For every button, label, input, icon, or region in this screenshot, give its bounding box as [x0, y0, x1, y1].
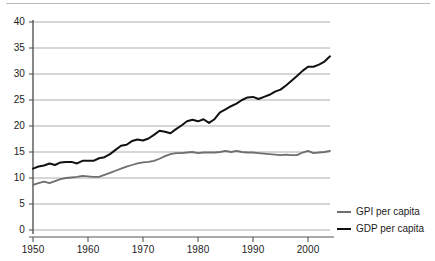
x-axis-label-1970: 1970	[126, 244, 160, 255]
x-axis-label-2000: 2000	[291, 244, 325, 255]
x-axis-label-1960: 1960	[71, 244, 105, 255]
legend-item-gdp[interactable]: GDP per capita	[337, 220, 433, 237]
chart-legend: GPI per capita GDP per capita	[337, 203, 433, 237]
y-axis-label-40: 40	[3, 16, 25, 27]
y-axis-label-0: 0	[3, 224, 25, 235]
axes-group	[29, 20, 334, 237]
legend-swatch-gpi	[337, 211, 351, 213]
x-axis-label-1990: 1990	[236, 244, 270, 255]
x-axis-label-1950: 1950	[16, 244, 50, 255]
y-axis-label-30: 30	[3, 68, 25, 79]
y-axis-label-10: 10	[3, 172, 25, 183]
x-tickmarks-group	[33, 237, 308, 242]
series-group	[33, 56, 330, 184]
chart-figure: 4035302520151050 19501960197019801990200…	[0, 0, 435, 261]
legend-label-gdp: GDP per capita	[356, 223, 424, 234]
y-axis-label-25: 25	[3, 94, 25, 105]
y-axis-label-5: 5	[3, 198, 25, 209]
x-axis-label-1980: 1980	[181, 244, 215, 255]
legend-item-gpi[interactable]: GPI per capita	[337, 203, 433, 220]
y-axis-label-35: 35	[3, 42, 25, 53]
y-axis-label-20: 20	[3, 120, 25, 131]
series-line-gpi	[33, 151, 330, 185]
legend-swatch-gdp	[337, 228, 351, 230]
y-axis-label-15: 15	[3, 146, 25, 157]
legend-label-gpi: GPI per capita	[356, 206, 420, 217]
